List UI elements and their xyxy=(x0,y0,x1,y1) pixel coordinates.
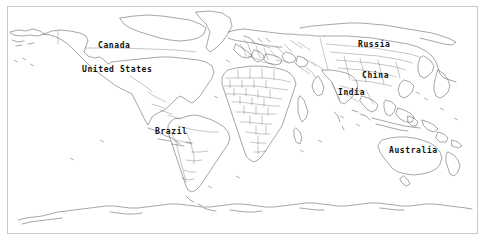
antarctica-coastline xyxy=(18,203,472,224)
map-label-china: China xyxy=(362,71,389,80)
africa-country-borders xyxy=(224,68,290,154)
europe-country-borders xyxy=(240,40,310,64)
map-label-russia: Russia xyxy=(358,40,391,49)
map-label-australia: Australia xyxy=(389,146,438,155)
continent-australia xyxy=(378,132,462,186)
map-label-united-states: United States xyxy=(82,65,152,74)
world-map-container: Canada United States Brazil Russia China… xyxy=(0,0,486,241)
map-label-india: India xyxy=(338,88,365,97)
world-map-graphic xyxy=(0,0,486,241)
continent-europe xyxy=(228,29,324,67)
map-label-canada: Canada xyxy=(98,41,131,50)
continent-north-america xyxy=(10,11,232,146)
map-label-brazil: Brazil xyxy=(155,127,188,136)
